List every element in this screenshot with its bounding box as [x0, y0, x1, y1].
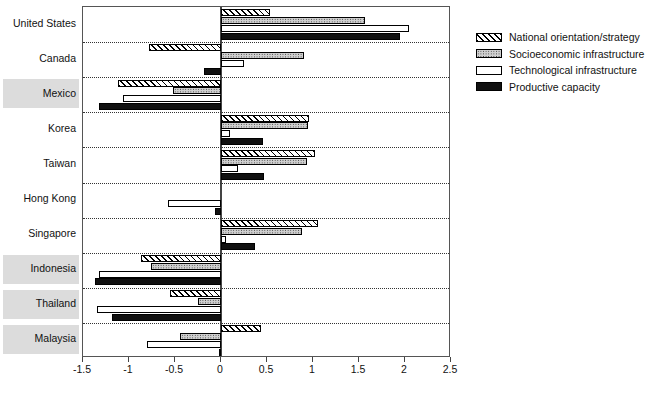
bar-nat-indonesia — [141, 255, 221, 262]
x-axis-tick-label: 2 — [401, 363, 407, 375]
row-separator — [83, 147, 449, 148]
bar-prod-singapore — [221, 243, 255, 250]
bar-tec-united-states — [221, 25, 409, 32]
legend-swatch-tec — [476, 66, 502, 75]
chart-container: United StatesCanadaMexicoKoreaTaiwanHong… — [0, 0, 661, 396]
bar-tec-thailand — [97, 306, 221, 313]
legend-label: Productive capacity — [509, 81, 600, 93]
bar-prod-canada — [204, 68, 221, 75]
y-axis-tick-label: Taiwan — [0, 158, 76, 169]
x-axis-tick — [82, 357, 83, 362]
row-separator — [83, 42, 449, 43]
legend-label: Socioeconomic infrastructure — [509, 48, 644, 60]
legend-item-nat: National orientation/strategy — [476, 31, 656, 43]
row-separator — [83, 112, 449, 113]
bar-soc-mexico — [173, 87, 221, 94]
plot-area — [82, 6, 450, 357]
bar-prod-united-states — [221, 33, 400, 40]
bar-nat-malaysia — [221, 325, 261, 332]
y-axis-tick-label: Thailand — [0, 298, 76, 309]
row-separator — [83, 218, 449, 219]
x-axis-tick-label: 2.5 — [443, 363, 458, 375]
bar-nat-singapore — [221, 220, 318, 227]
bar-nat-mexico — [118, 80, 221, 87]
legend-item-tec: Technological infrastructure — [476, 64, 656, 76]
x-axis-tick — [450, 357, 451, 362]
row-separator — [83, 323, 449, 324]
bar-soc-singapore — [221, 228, 302, 235]
bar-soc-taiwan — [221, 158, 307, 165]
y-axis-tick-label: Korea — [0, 123, 76, 134]
y-axis-tick-label: Mexico — [0, 88, 76, 99]
bar-tec-taiwan — [221, 165, 238, 172]
x-axis-tick-label: -1.5 — [73, 363, 91, 375]
bar-tec-hong-kong — [168, 200, 221, 207]
x-axis-tick-label: 1 — [309, 363, 315, 375]
bar-soc-canada — [221, 52, 304, 59]
bar-prod-korea — [221, 138, 263, 145]
bar-tec-malaysia — [147, 341, 221, 348]
bar-prod-indonesia — [95, 278, 221, 285]
bar-soc-indonesia — [151, 263, 221, 270]
row-separator — [83, 77, 449, 78]
bar-tec-indonesia — [99, 271, 221, 278]
bar-nat-taiwan — [221, 150, 315, 157]
bar-tec-mexico — [123, 95, 221, 102]
x-axis-tick — [358, 357, 359, 362]
y-axis-tick-label: Canada — [0, 53, 76, 64]
legend-swatch-nat — [476, 33, 502, 42]
bar-soc-malaysia — [180, 333, 221, 340]
bar-nat-united-states — [221, 9, 270, 16]
legend-item-prod: Productive capacity — [476, 81, 656, 93]
row-separator — [83, 288, 449, 289]
x-axis-tick — [220, 357, 221, 362]
bar-prod-hong-kong — [215, 208, 221, 215]
bar-nat-thailand — [170, 290, 221, 297]
bar-soc-korea — [221, 122, 308, 129]
bar-prod-taiwan — [221, 173, 264, 180]
legend-swatch-soc — [476, 49, 502, 58]
y-axis-tick-label: Malaysia — [0, 333, 76, 344]
bar-tec-korea — [221, 130, 230, 137]
x-axis-tick-label: -0.5 — [165, 363, 183, 375]
x-axis-tick — [128, 357, 129, 362]
x-axis-tick — [312, 357, 313, 362]
bar-nat-korea — [221, 115, 309, 122]
x-axis-tick-label: -1 — [123, 363, 132, 375]
x-axis-tick — [174, 357, 175, 362]
x-axis-tick-label: 0 — [217, 363, 223, 375]
y-axis-tick-label: Hong Kong — [0, 193, 76, 204]
bar-tec-singapore — [221, 236, 226, 243]
legend-label: Technological infrastructure — [509, 64, 637, 76]
bar-tec-canada — [221, 60, 244, 67]
legend-swatch-prod — [476, 82, 502, 91]
x-axis-tick — [404, 357, 405, 362]
legend-item-soc: Socioeconomic infrastructure — [476, 48, 656, 60]
y-axis-tick-label: Indonesia — [0, 263, 76, 274]
x-axis-tick — [266, 357, 267, 362]
bar-soc-united-states — [221, 17, 365, 24]
bar-prod-malaysia — [219, 349, 221, 356]
chart-legend: National orientation/strategySocioeconom… — [476, 31, 656, 97]
x-axis-tick-label: 1.5 — [351, 363, 366, 375]
bar-prod-thailand — [112, 314, 221, 321]
legend-label: National orientation/strategy — [509, 31, 640, 43]
row-separator — [83, 183, 449, 184]
y-axis-tick-label: United States — [0, 18, 76, 29]
row-separator — [83, 253, 449, 254]
bar-prod-mexico — [99, 103, 221, 110]
x-axis-tick-label: 0.5 — [259, 363, 274, 375]
bar-nat-canada — [149, 44, 221, 51]
y-axis-tick-label: Singapore — [0, 228, 76, 239]
x-axis: -1.5-1-0.500.511.522.5 — [82, 357, 450, 387]
bar-soc-thailand — [198, 298, 221, 305]
